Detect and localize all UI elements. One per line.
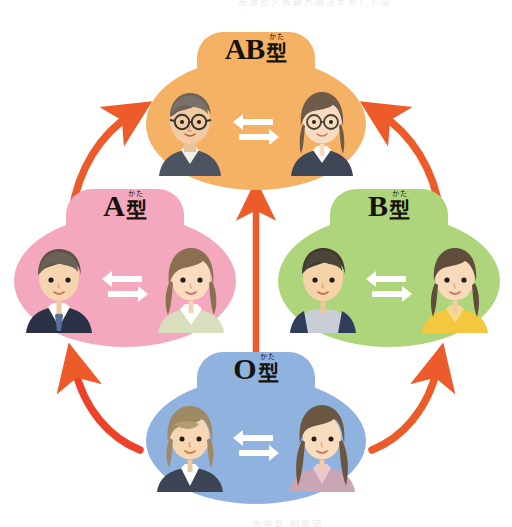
exchange-icon-o: [233, 429, 279, 463]
node-label-a: A かた 型: [103, 191, 147, 221]
caption-bottom: 血液型 相関図: [252, 518, 323, 527]
node-bubble-a[interactable]: A かた 型: [14, 215, 236, 347]
person-pair-b: [278, 241, 500, 333]
node-kanji-a: 型: [126, 199, 147, 220]
node-bubble-b[interactable]: B かた 型: [278, 215, 500, 347]
node-kanji-ab: 型: [266, 42, 287, 63]
arrow-o-to-b: [372, 366, 438, 450]
node-label-o-latin: O: [233, 354, 255, 384]
exchange-icon-a: [102, 270, 148, 304]
arrow-o-to-a: [74, 366, 140, 450]
person-pair-ab: [146, 84, 366, 176]
person-ab-woman: [283, 84, 361, 176]
node-label-ab: AB かた 型: [225, 34, 288, 64]
node-kanji-b: 型: [389, 199, 410, 220]
node-bubble-o[interactable]: O かた 型: [146, 378, 366, 504]
node-label-a-latin: A: [103, 191, 124, 221]
person-pair-a: [14, 241, 236, 333]
person-ab-man: [151, 84, 229, 176]
node-bubble-ab[interactable]: AB かた 型: [146, 58, 366, 190]
node-kanji-o: 型: [258, 362, 279, 383]
exchange-icon-ab: [233, 113, 279, 147]
exchange-icon-b: [366, 270, 412, 304]
node-label-b-latin: B: [368, 191, 387, 221]
node-label-o: O かた 型: [233, 354, 278, 384]
person-o-woman: [283, 400, 361, 492]
person-a-man: [20, 241, 98, 333]
person-pair-o: [146, 400, 366, 492]
person-a-woman: [152, 241, 230, 333]
person-b-man: [284, 241, 362, 333]
node-label-ab-latin: AB: [225, 34, 265, 64]
node-label-b: B かた 型: [368, 191, 410, 221]
person-b-woman: [416, 241, 494, 333]
person-o-man: [151, 400, 229, 492]
